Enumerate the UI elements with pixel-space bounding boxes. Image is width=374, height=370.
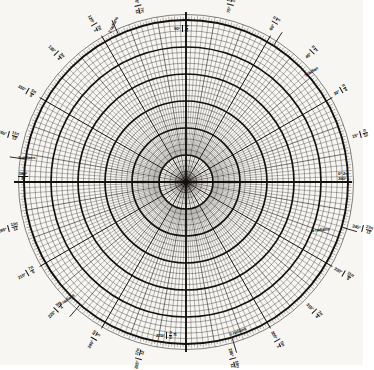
tick-degrees: 255° [133,360,139,369]
axis-label-90: 90° π 2 [174,24,189,33]
axis-label-90-rad: π 2 [185,24,189,33]
axis-label-270-pi: π [173,333,176,338]
tick-degrees: 30° [333,89,340,96]
axis-label-270-frac: 3 2 [169,331,172,340]
tick-radians: 17π12 [134,347,145,357]
frac-denominator: 3 [274,344,280,349]
tick-degrees: 105° [133,0,139,4]
frac-denominator: 3 [95,333,101,338]
frac-denominator: 2 [185,28,188,33]
label-divider [135,357,142,359]
frac-denominator: 12 [11,135,17,141]
frac-denominator: 6 [28,92,33,98]
tick-radians: π12 [361,128,369,138]
frac-denominator: 12 [362,132,368,138]
axis-label-180: 180° π [18,172,28,182]
axis-label-270: 270° 3 2 π [156,331,176,340]
tick-degrees: 165° [0,129,7,135]
frac-denominator: 4 [55,55,61,61]
tick-degrees: 345° [352,224,361,230]
tick-degrees: 210° [17,272,26,280]
frac-denominator: 6 [346,275,351,281]
axis-label-180-rad: π [18,177,28,182]
radian-callout-3: 3 radians [18,156,35,160]
frac-denominator: 12 [139,350,145,356]
axis-label-90-deg: 90° [174,27,180,31]
tick-degrees: 15° [351,133,358,139]
frac-denominator: 6 [30,269,35,275]
tick-degrees: 150° [17,84,26,92]
frac-denominator: 3 [91,27,97,32]
frac-denominator: 12 [134,9,140,15]
tick-radians: 19π12 [229,360,240,370]
tick-degrees: 285° [228,348,234,357]
frac-denominator: 3 [275,17,281,22]
tick-radians: 23π12 [363,225,373,236]
tick-degrees: 120° [86,14,94,23]
tick-degrees: 45° [305,52,312,59]
tick-degrees: 75° [226,7,232,14]
tick-degrees: 195° [0,228,7,234]
frac-denominator: 2 [169,335,172,340]
tick-degrees: 135° [47,44,56,53]
axis-label-270-deg: 270° [156,334,164,338]
axis-label-360: 360° [338,177,348,181]
tick-degrees: 300° [269,331,277,340]
label-divider [166,332,167,339]
frac-denominator: 12 [365,230,371,236]
label-divider [182,25,183,32]
tick-degrees: 330° [334,266,343,274]
tick-degrees: 60° [268,23,275,30]
label-divider [359,131,361,138]
axis-label-0-360: 0° 2π 360° [338,172,348,182]
